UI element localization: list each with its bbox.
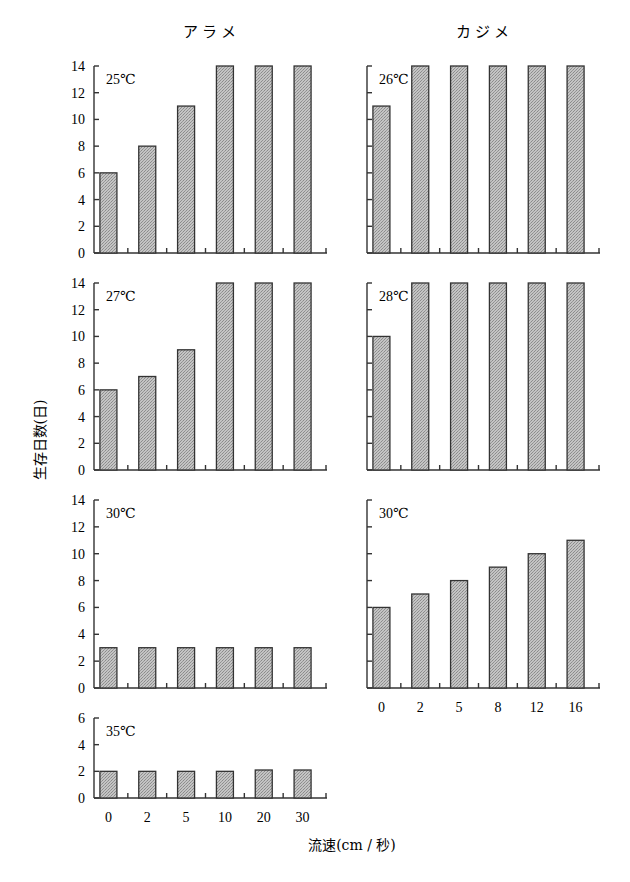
y-tick-label: 2 [78,436,85,451]
bar-16 [567,540,584,688]
bar-30 [294,770,311,798]
y-tick-label: 2 [78,654,85,669]
x-tick-label: 30 [296,810,310,825]
temperature-label: 25℃ [106,72,136,87]
y-tick-label: 2 [78,764,85,779]
x-tick-label: 16 [569,700,583,715]
bar-10 [216,283,233,470]
bar-20 [255,283,272,470]
species-title-arame: アラメ [183,23,240,41]
bar-panel-28c-kajime: 28℃ [367,283,600,470]
y-tick-label: 6 [78,166,85,181]
bar-5 [178,350,195,470]
bar-0 [373,336,390,470]
bar-2 [412,66,429,253]
y-tick-label: 0 [78,246,85,261]
y-tick-label: 8 [78,356,85,371]
bar-panel-30c-kajime: 0258121630℃ [367,500,600,715]
y-tick-label: 12 [71,303,85,318]
bar-30 [294,648,311,688]
y-tick-label: 14 [71,59,85,74]
y-tick-label: 6 [78,600,85,615]
temperature-label: 27℃ [106,289,136,304]
y-tick-label: 0 [78,463,85,478]
bar-2 [412,283,429,470]
x-tick-label: 5 [183,810,190,825]
y-tick-label: 6 [78,711,85,726]
x-tick-label: 2 [144,810,151,825]
y-axis-title: 生存日数(日) [32,400,48,481]
y-tick-label: 6 [78,383,85,398]
bar-2 [139,146,156,253]
bar-10 [216,66,233,253]
x-tick-label: 5 [456,700,463,715]
bar-panel-25c-arame: 0246810121425℃ [71,59,327,261]
y-tick-label: 8 [78,139,85,154]
bar-5 [451,581,468,688]
bar-20 [255,66,272,253]
y-tick-label: 14 [71,493,85,508]
temperature-label: 35℃ [106,724,136,739]
x-tick-label: 0 [105,810,112,825]
bar-panel-27c-arame: 0246810121427℃ [71,276,327,478]
bar-0 [100,390,117,470]
bar-10 [216,771,233,798]
bar-0 [373,607,390,688]
y-tick-label: 10 [71,112,85,127]
x-tick-label: 2 [417,700,424,715]
bar-8 [489,283,506,470]
panels-group: 0246810121425℃26℃0246810121427℃28℃024681… [71,59,600,825]
x-tick-label: 8 [494,700,501,715]
temperature-label: 30℃ [106,506,136,521]
x-tick-label: 10 [218,810,232,825]
bar-2 [412,594,429,688]
chart-figure: アラメ カジメ 生存日数(日) 流速(cm / 秒) 0246810121425… [0,0,630,882]
bar-30 [294,283,311,470]
bar-8 [489,567,506,688]
y-tick-label: 0 [78,791,85,806]
x-tick-label: 0 [378,700,385,715]
bar-20 [255,648,272,688]
y-tick-label: 14 [71,276,85,291]
y-tick-label: 10 [71,547,85,562]
bar-8 [489,66,506,253]
y-tick-label: 10 [71,329,85,344]
bar-20 [255,770,272,798]
bar-panel-30c-arame: 0246810121430℃ [71,493,327,696]
bar-12 [528,66,545,253]
bar-12 [528,283,545,470]
bar-30 [294,66,311,253]
bar-0 [373,106,390,253]
bar-5 [451,66,468,253]
bar-16 [567,283,584,470]
species-title-kajime: カジメ [456,23,513,41]
y-tick-label: 4 [78,627,85,642]
x-tick-label: 12 [530,700,544,715]
bar-16 [567,66,584,253]
y-tick-label: 4 [78,410,85,425]
bar-panel-26c-kajime: 26℃ [367,66,600,253]
bar-5 [178,648,195,688]
temperature-label: 28℃ [379,289,409,304]
bar-0 [100,648,117,688]
x-tick-label: 20 [257,810,271,825]
y-tick-label: 0 [78,681,85,696]
bar-0 [100,173,117,253]
y-tick-label: 2 [78,219,85,234]
bar-10 [216,648,233,688]
y-tick-label: 4 [78,193,85,208]
bar-panel-35c-arame: 024602510203035℃ [78,711,327,825]
y-tick-label: 12 [71,86,85,101]
bar-0 [100,771,117,798]
bar-5 [178,771,195,798]
bar-5 [451,283,468,470]
temperature-label: 30℃ [379,506,409,521]
y-tick-label: 12 [71,520,85,535]
bar-2 [139,771,156,798]
x-axis-title: 流速(cm / 秒) [308,837,396,853]
bar-2 [139,648,156,688]
bar-2 [139,377,156,471]
bar-12 [528,554,545,688]
bar-5 [178,106,195,253]
y-tick-label: 4 [78,738,85,753]
